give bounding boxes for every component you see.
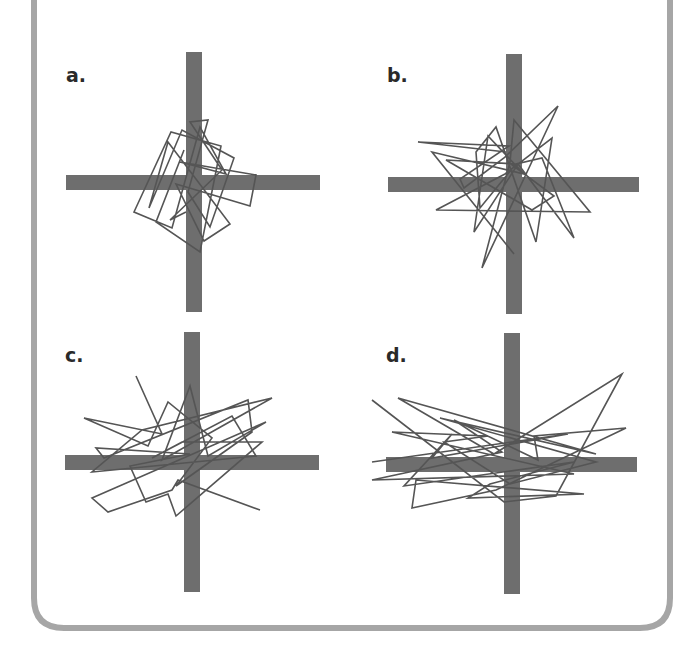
frame-border xyxy=(34,0,670,628)
panel-label: c. xyxy=(65,344,83,366)
panel-a: a. xyxy=(66,52,320,312)
panel-c: c. xyxy=(65,332,319,592)
vertical-axis-bar xyxy=(506,54,522,314)
random-walk-path xyxy=(372,374,626,508)
vertical-axis-bar xyxy=(504,333,520,594)
random-walk-path xyxy=(84,376,272,516)
panel-b: b. xyxy=(387,54,639,314)
panel-d: d. xyxy=(372,333,637,594)
vertical-axis-bar xyxy=(186,52,202,312)
panel-label: b. xyxy=(387,64,408,86)
figure-canvas: a. b. c. d. xyxy=(0,0,697,652)
panel-label: a. xyxy=(66,64,86,86)
panel-label: d. xyxy=(386,344,407,366)
